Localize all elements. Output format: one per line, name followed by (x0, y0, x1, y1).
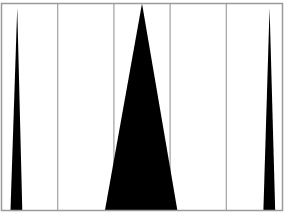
plot-area (0, 0, 284, 212)
chart (0, 0, 284, 212)
